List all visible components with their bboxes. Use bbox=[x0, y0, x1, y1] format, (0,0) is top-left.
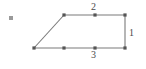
bullet-dot-icon bbox=[9, 16, 13, 20]
tick-marker-bottom-third-1 bbox=[62, 46, 65, 49]
edge-length-label-bottom: 3 bbox=[91, 50, 96, 60]
edge-length-label-top: 2 bbox=[91, 2, 96, 12]
edge-length-label-right: 1 bbox=[129, 28, 134, 38]
edge-slant bbox=[34, 15, 64, 48]
tick-marker-top-midpoint bbox=[93, 13, 96, 16]
vertex-marker-top-right bbox=[123, 13, 126, 16]
vertex-marker-bottom-left bbox=[32, 46, 35, 49]
trapezoid-diagram bbox=[0, 0, 146, 69]
vertex-marker-bottom-right bbox=[123, 46, 126, 49]
figure-canvas: 2 1 3 bbox=[0, 0, 146, 69]
vertex-marker-top-left bbox=[62, 13, 65, 16]
